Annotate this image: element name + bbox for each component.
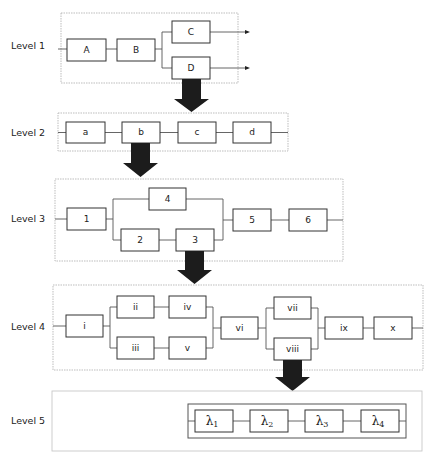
expand-arrow-icon	[123, 143, 158, 177]
block-2: 2	[121, 229, 159, 251]
block-iii: iii	[117, 337, 154, 359]
wire-split	[162, 32, 172, 68]
block-label: a	[83, 127, 89, 137]
block-lambda-2: λ2	[250, 410, 288, 432]
block-label: 6	[305, 215, 311, 225]
block-label: b	[138, 127, 144, 137]
block-label: viii	[286, 344, 299, 354]
block-label: vii	[287, 303, 297, 313]
block-label: i	[83, 321, 86, 331]
level-3: Level 3 1 4 2 3 5 6	[11, 179, 343, 261]
arrowhead-icon	[245, 30, 250, 34]
block-x: x	[374, 317, 412, 339]
level-1-label: Level 1	[11, 40, 45, 51]
block-label: ii	[133, 302, 138, 312]
block-label: A	[83, 45, 90, 55]
block-label: iii	[132, 343, 140, 353]
block-ii: ii	[117, 296, 154, 318]
block-3: 3	[176, 229, 214, 251]
block-label: v	[185, 343, 191, 353]
block-label: C	[188, 27, 194, 37]
block-b: b	[122, 122, 160, 143]
block-label: B	[133, 45, 139, 55]
level-1: Level 1 A B C D	[11, 13, 250, 83]
block-lambda-1: λ1	[195, 410, 233, 432]
block-label: 3	[192, 235, 198, 245]
reliability-block-diagram: Level 1 A B C D Level 2	[0, 0, 433, 462]
wire-join	[311, 308, 318, 349]
block-label: iv	[184, 302, 193, 312]
wire-join	[206, 307, 213, 348]
block-v: v	[169, 337, 206, 359]
level-5-label: Level 5	[11, 415, 45, 426]
block-label: vi	[236, 323, 244, 333]
block-label: 2	[137, 235, 143, 245]
block-lambda-3: λ3	[305, 410, 343, 432]
block-4: 4	[149, 188, 186, 210]
block-vii: vii	[274, 297, 311, 319]
block-d: d	[233, 122, 271, 143]
wire-split	[110, 307, 117, 348]
block-B: B	[117, 39, 155, 61]
block-A: A	[67, 39, 106, 61]
level-4-label: Level 4	[11, 321, 45, 332]
block-i: i	[66, 315, 103, 337]
arrowhead-icon	[245, 66, 250, 70]
level-4: Level 4 i ii iv iii v	[11, 285, 423, 370]
block-label: x	[390, 323, 396, 333]
block-lambda-4: λ4	[361, 410, 399, 432]
block-c: c	[178, 122, 216, 143]
block-vi: vi	[221, 317, 258, 339]
block-ix: ix	[325, 317, 363, 339]
expand-arrow-icon	[177, 251, 212, 284]
expand-arrow-icon	[275, 360, 310, 391]
block-label: c	[195, 127, 200, 137]
wire-split	[266, 308, 274, 349]
block-1: 1	[67, 208, 106, 230]
level-3-label: Level 3	[11, 213, 45, 224]
block-5: 5	[233, 209, 271, 231]
block-iv: iv	[169, 296, 206, 318]
block-viii: viii	[274, 338, 311, 360]
block-D: D	[172, 57, 210, 79]
block-label: d	[249, 127, 255, 137]
block-6: 6	[289, 209, 327, 231]
expand-arrow-icon	[174, 79, 209, 112]
level-2-label: Level 2	[11, 127, 45, 138]
block-C: C	[172, 21, 210, 43]
block-a: a	[66, 122, 105, 143]
block-label: D	[188, 63, 195, 73]
level-5: Level 5 λ1 λ2 λ3 λ4	[11, 391, 422, 451]
block-label: 1	[84, 214, 90, 224]
block-label: ix	[340, 323, 349, 333]
block-label: 4	[165, 194, 171, 204]
block-label: 5	[249, 215, 255, 225]
